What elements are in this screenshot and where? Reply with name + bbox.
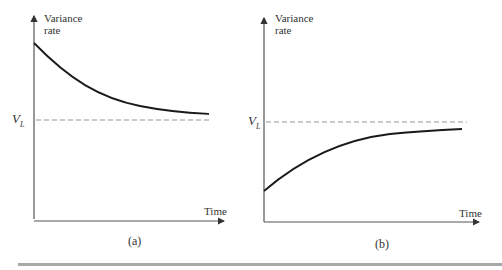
panel-a-graph	[34, 16, 224, 221]
bottom-rule	[18, 263, 502, 266]
panel-b-y-label-line1: Variance	[275, 12, 313, 24]
panel-b-graph	[264, 18, 479, 222]
vl-sub: L	[256, 122, 260, 131]
panel-a-vl-label: VL	[12, 111, 24, 129]
panel-a-y-label-line2: rate	[44, 24, 82, 36]
vl-main: V	[12, 111, 20, 126]
panel-b-curve	[264, 129, 462, 191]
panel-b-x-label: Time	[459, 207, 482, 219]
vl-main: V	[248, 113, 256, 128]
panel-a-x-label: Time	[204, 205, 227, 217]
panel-a-y-label-line1: Variance	[44, 12, 82, 24]
panel-b-y-label-line2: rate	[275, 24, 313, 36]
panel-b-y-label: Variance rate	[275, 12, 313, 36]
diagram-canvas	[0, 0, 502, 270]
vl-sub: L	[20, 120, 24, 129]
panel-b-vl-label: VL	[248, 113, 260, 131]
panel-a-curve	[34, 43, 209, 114]
panel-a-y-label: Variance rate	[44, 12, 82, 36]
panel-b-caption: (b)	[375, 237, 389, 252]
panel-a-caption: (a)	[128, 234, 141, 249]
